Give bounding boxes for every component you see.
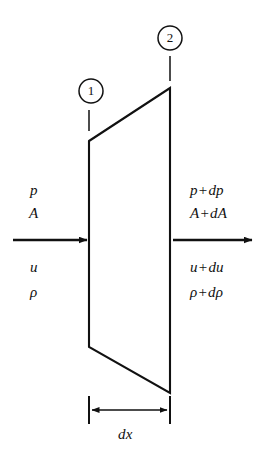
outlet-velocity-operator: + — [198, 259, 209, 275]
outlet-velocity-label: u+du — [190, 260, 224, 275]
inlet-density-label: ρ — [30, 285, 37, 300]
outlet-density-rhs: dρ — [208, 284, 223, 300]
control-volume-outline — [89, 88, 170, 393]
outlet-area-label: A+dA — [190, 206, 227, 221]
inlet-velocity-label: u — [30, 260, 38, 275]
figure-canvas — [0, 0, 265, 454]
outlet-area-rhs: dA — [210, 205, 227, 221]
outlet-area-lhs: A — [190, 205, 199, 221]
outlet-pressure-lhs: p — [190, 182, 198, 198]
inlet-pressure-label: p — [30, 183, 38, 198]
outlet-area-operator: + — [199, 205, 210, 221]
outlet-pressure-rhs: dp — [208, 182, 223, 198]
control-volume-figure: 1 2 p A u ρ p+dp A+dA u+du ρ+dρ dx — [0, 0, 265, 454]
outlet-pressure-operator: + — [198, 182, 209, 198]
outlet-velocity-lhs: u — [190, 259, 198, 275]
outlet-pressure-label: p+dp — [190, 183, 224, 198]
inlet-area-label: A — [29, 206, 38, 221]
outlet-velocity-rhs: du — [208, 259, 223, 275]
outlet-density-label: ρ+dρ — [190, 285, 223, 300]
station-1-label: 1 — [78, 84, 104, 97]
outlet-density-operator: + — [197, 284, 208, 300]
station-2-label: 2 — [157, 31, 183, 44]
dx-label: dx — [118, 427, 133, 442]
